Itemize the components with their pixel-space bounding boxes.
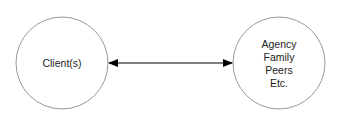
support-label-etc: Etc. (270, 77, 288, 89)
support-label-family: Family (264, 51, 296, 63)
client-label: Client(s) (42, 57, 81, 69)
support-node (233, 17, 325, 109)
relationship-diagram: Client(s) Agency Family Peers Etc. (0, 0, 339, 120)
support-label-agency: Agency (261, 38, 297, 50)
support-label-peers: Peers (265, 64, 292, 76)
